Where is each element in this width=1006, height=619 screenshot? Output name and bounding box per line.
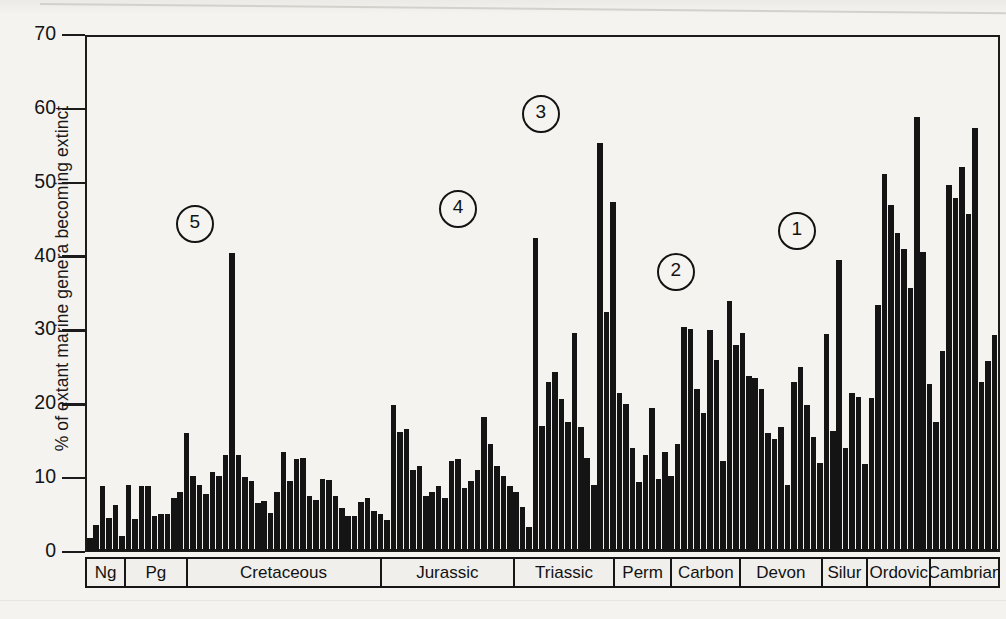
extinction-callout-3: 3 [522,95,560,133]
bar [152,516,158,551]
bar [391,405,397,551]
period-band-devon: Devon [740,557,821,588]
bar [358,502,364,551]
bar [584,458,590,551]
y-axis-tick [62,34,85,37]
bar [552,372,558,551]
bar [662,452,668,551]
bar [300,458,306,551]
bar [636,482,642,551]
bar [132,519,138,551]
bar [791,382,797,551]
y-axis-tick-label: 50 [4,170,56,193]
bar [694,389,700,551]
period-band-ng: Ng [85,557,125,588]
y-axis-tick-label: 20 [4,391,56,414]
bar [804,405,810,551]
bar [610,202,616,551]
bar [507,486,513,551]
bar [442,498,448,551]
bar [520,507,526,551]
bar [675,444,681,551]
bar [113,505,119,551]
bar [849,393,855,551]
bar [281,452,287,551]
bar [759,389,765,551]
scan-artifact-bottom [0,600,1006,601]
bar [429,492,435,551]
bar [862,464,868,551]
bar [462,488,468,551]
bar [100,486,106,551]
bar [966,214,972,551]
bar [158,514,164,551]
bar [268,513,274,551]
bar [798,367,804,551]
bar [93,525,99,551]
bar [455,459,461,551]
y-axis-tick [62,477,85,480]
bar [320,479,326,551]
bar [811,437,817,551]
bar [836,260,842,551]
bar [940,351,946,551]
bar [681,327,687,551]
bar [714,360,720,551]
bar [526,527,532,551]
bar [255,503,261,551]
bar [895,233,901,551]
bar [572,333,578,551]
bar [623,404,629,551]
geologic-period-axis: NgPgCretaceousJurassicTriassicPermCarbon… [85,557,1000,588]
period-band-silur: Silur [822,557,868,588]
bar [436,486,442,551]
bar [216,476,222,551]
period-band-pg: Pg [125,557,186,588]
bar [468,481,474,551]
bar [384,520,390,551]
extinction-callout-1: 1 [778,212,816,250]
period-band-cambrian: Cambrian [930,557,1000,588]
y-axis-tick [62,403,85,406]
bar [992,335,998,551]
bar [765,433,771,551]
bar [933,422,939,551]
bar [87,538,93,551]
bar [539,426,545,551]
bar [449,461,455,551]
bar [197,485,203,551]
bar [707,330,713,551]
bar [617,393,623,551]
bar [565,422,571,551]
bar [333,496,339,551]
y-axis-tick [62,255,85,258]
bar [772,439,778,551]
y-axis-tick-label: 40 [4,244,56,267]
y-axis-tick-label: 0 [4,539,56,562]
bar [985,361,991,551]
bar [920,252,926,551]
bar [649,408,655,551]
bar [345,516,351,551]
period-band-jurassic: Jurassic [381,557,515,588]
bar [378,514,384,551]
bar [752,378,758,551]
period-band-perm: Perm [614,557,672,588]
period-band-carbon: Carbon [671,557,740,588]
bar [778,427,784,551]
bar [727,301,733,551]
bar [785,485,791,551]
bar [843,448,849,551]
bar [417,466,423,551]
bar [184,433,190,551]
bar [261,501,267,551]
bar [513,492,519,551]
y-axis-tick-label: 60 [4,96,56,119]
bar [888,205,894,551]
bar [824,334,830,551]
bar [746,376,752,551]
y-axis-tick [62,182,85,185]
bar [294,459,300,551]
bar [701,413,707,551]
y-axis-tick-label: 10 [4,465,56,488]
